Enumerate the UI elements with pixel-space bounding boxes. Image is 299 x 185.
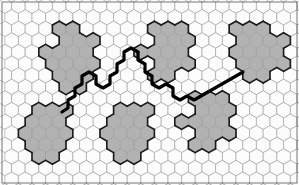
hex-cell-layer bbox=[0, 0, 299, 185]
hex-lattice-figure bbox=[0, 0, 299, 185]
hex-lattice-canvas bbox=[0, 0, 299, 185]
